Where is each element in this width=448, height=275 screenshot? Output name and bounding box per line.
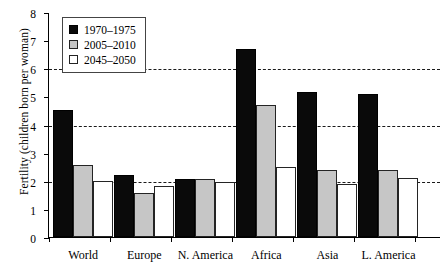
- bar: [195, 179, 215, 237]
- y-axis-tick-label: 1: [30, 203, 36, 219]
- bar: [276, 167, 296, 237]
- bar-group: Asia: [297, 13, 358, 237]
- legend-swatch-icon: [69, 25, 78, 34]
- x-axis-category-label: Europe: [114, 248, 175, 263]
- bar: [378, 170, 398, 238]
- y-axis-tick: 6: [44, 69, 49, 70]
- legend-swatch-icon: [69, 55, 78, 64]
- legend-swatch-icon: [69, 40, 78, 49]
- x-axis-category-label: World: [53, 248, 114, 263]
- bar: [358, 94, 378, 237]
- y-axis-tick: 8: [44, 13, 49, 14]
- bar: [398, 178, 418, 237]
- bar: [154, 186, 174, 237]
- x-axis-tick: [354, 237, 355, 242]
- legend-item: 1970–1975: [69, 22, 136, 37]
- y-axis-tick: 5: [44, 97, 49, 98]
- bar: [297, 92, 317, 237]
- y-axis-tick-label: 5: [30, 90, 36, 106]
- bar: [337, 184, 357, 237]
- bar: [53, 110, 73, 237]
- x-axis-tick: [110, 237, 111, 242]
- y-axis-tick: 4: [44, 126, 49, 127]
- fertility-bar-chart: Fertility (children born per woman) 0123…: [0, 0, 448, 275]
- bar: [93, 181, 113, 237]
- y-axis-tick: 7: [44, 41, 49, 42]
- y-axis-tick-label: 8: [30, 6, 36, 22]
- bar: [114, 175, 134, 237]
- y-axis-tick: 2: [44, 182, 49, 183]
- legend-label: 2045–2050: [84, 54, 136, 66]
- x-axis-tick: [415, 237, 416, 242]
- y-axis-tick-label: 0: [30, 231, 36, 247]
- x-axis-category-label: L. America: [358, 248, 419, 263]
- legend-item: 2005–2010: [69, 37, 136, 52]
- y-axis-tick: 1: [44, 210, 49, 211]
- bar: [215, 182, 235, 237]
- bar: [317, 170, 337, 238]
- bar: [175, 179, 195, 237]
- legend-item: 2045–2050: [69, 52, 136, 67]
- x-axis-category-label: N. America: [175, 248, 236, 263]
- bar-group: Africa: [236, 13, 297, 237]
- x-axis-tick: [171, 237, 172, 242]
- bar: [73, 165, 93, 237]
- y-axis-tick-label: 4: [30, 119, 36, 135]
- x-axis-tick: [232, 237, 233, 242]
- y-axis-tick-label: 7: [30, 34, 36, 50]
- x-axis-category-label: Asia: [297, 248, 358, 263]
- y-axis-tick: 3: [44, 154, 49, 155]
- chart-legend: 1970–19752005–20102045–2050: [62, 17, 146, 73]
- y-axis-tick-label: 3: [30, 147, 36, 163]
- x-axis-tick: [293, 237, 294, 242]
- y-axis-tick-label: 6: [30, 62, 36, 78]
- legend-label: 2005–2010: [84, 39, 136, 51]
- y-axis-tick-label: 2: [30, 175, 36, 191]
- bar-group: L. America: [358, 13, 419, 237]
- legend-label: 1970–1975: [84, 24, 136, 36]
- bar: [134, 193, 154, 237]
- bar: [236, 49, 256, 237]
- bar-group: N. America: [175, 13, 236, 237]
- x-axis-tick: [49, 237, 50, 242]
- bar: [256, 105, 276, 237]
- x-axis-category-label: Africa: [236, 248, 297, 263]
